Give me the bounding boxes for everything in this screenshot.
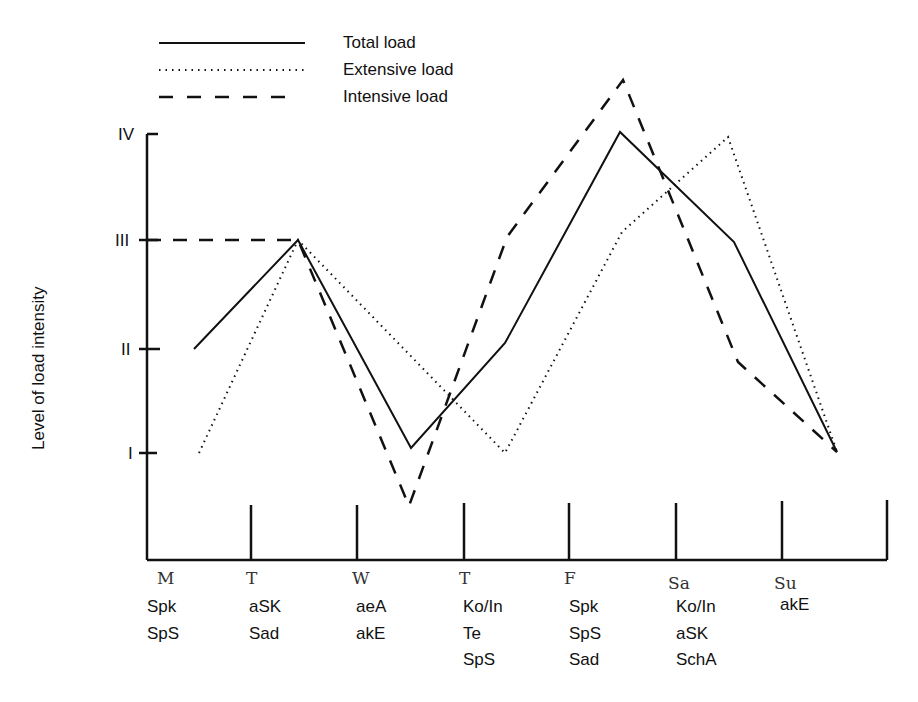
day-label: Su (774, 573, 797, 593)
activity-label: Sad (249, 624, 279, 643)
activity-label: aSK (249, 597, 282, 616)
activity-label: akE (780, 595, 809, 614)
day-label: Sa (668, 573, 690, 593)
y-axis-label: Level of load intensity (29, 286, 48, 450)
legend: Total load Extensive load Intensive load (159, 33, 454, 106)
series-total-load (194, 132, 837, 452)
activity-label: Ko/In (676, 597, 716, 616)
day-label: T (246, 568, 258, 588)
series-intensive-load (147, 80, 837, 506)
ytick-II: II (121, 340, 130, 359)
legend-label-total: Total load (343, 33, 416, 52)
activity-label: aSK (676, 624, 709, 643)
activity-label: aeA (356, 597, 387, 616)
ytick-III: III (115, 231, 129, 250)
ytick-IV: IV (118, 125, 135, 144)
day-label: M (157, 568, 174, 588)
series-extensive-load (199, 137, 837, 453)
activity-label: Ko/In (463, 597, 503, 616)
day-label: W (352, 568, 370, 588)
activity-label: Sad (569, 650, 599, 669)
activity-label: SpS (147, 624, 179, 643)
activity-label: Te (463, 624, 481, 643)
activity-labels: Spk SpS aSK Sad aeA akE Ko/In Te SpS Spk… (147, 595, 809, 669)
legend-label-intensive: Intensive load (343, 87, 448, 106)
ytick-I: I (128, 444, 133, 463)
activity-label: SpS (569, 624, 601, 643)
activity-label: Spk (147, 597, 177, 616)
day-label: T (459, 568, 471, 588)
activity-label: SchA (676, 650, 717, 669)
axes (139, 134, 887, 560)
activity-label: akE (356, 624, 385, 643)
load-intensity-chart: Total load Extensive load Intensive load… (0, 0, 918, 702)
activity-label: SpS (463, 650, 495, 669)
day-labels: M T W T F Sa Su (157, 568, 797, 593)
day-label: F (564, 568, 576, 588)
legend-label-extensive: Extensive load (343, 60, 454, 79)
activity-label: Spk (569, 597, 599, 616)
